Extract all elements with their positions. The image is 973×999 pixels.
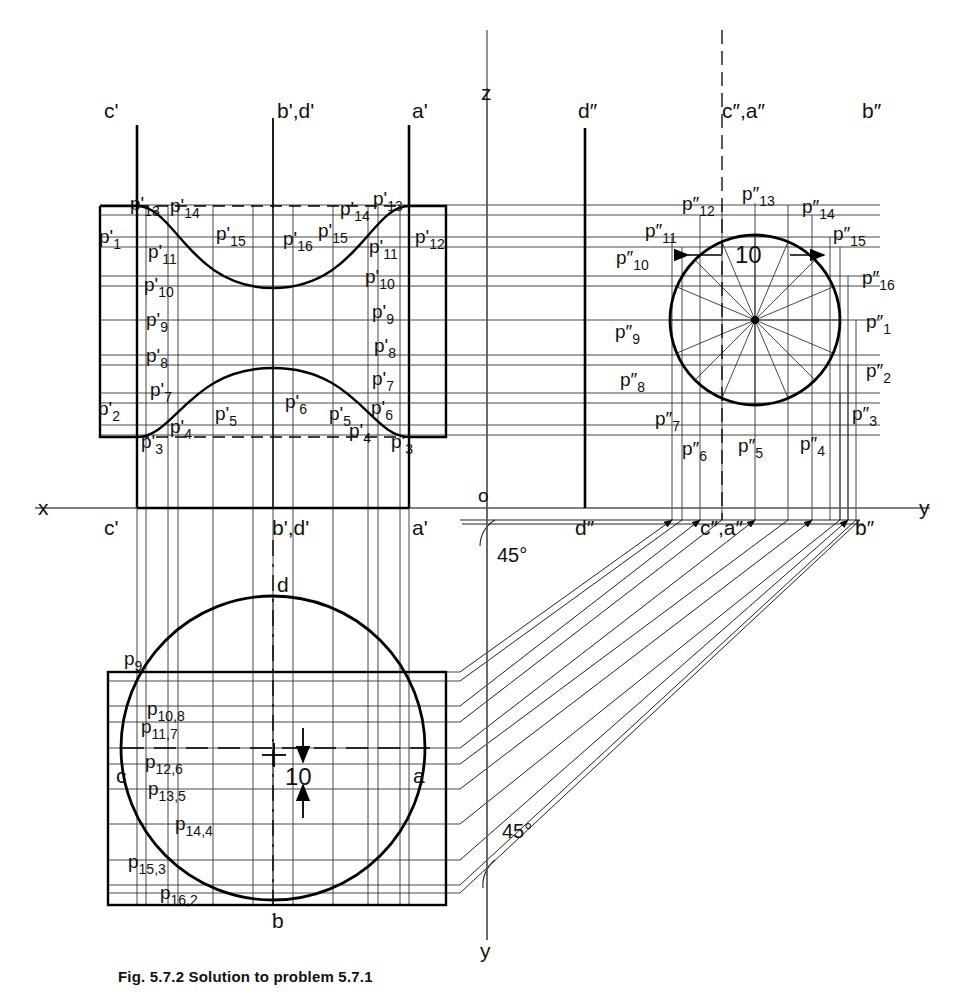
svg-text:p9: p9	[124, 648, 143, 674]
svg-text:p'14: p'14	[170, 195, 200, 221]
label-x-axis: x	[38, 496, 49, 519]
center-lines	[273, 30, 722, 915]
svg-text:p″14: p″14	[802, 196, 835, 222]
svg-text:p13,5: p13,5	[148, 778, 186, 804]
label-d-double-top: d″	[578, 99, 598, 122]
front-view-labels-right: p'13 p'14 p'15 p'12 p'11 p'10 p'9 p'8 p'…	[318, 188, 445, 457]
svg-text:p″8: p″8	[620, 369, 645, 395]
svg-text:c: c	[116, 764, 127, 787]
svg-text:d: d	[277, 573, 289, 596]
svg-text:p'8: p'8	[146, 345, 168, 371]
label-c-prime-bottom: c'	[104, 516, 119, 539]
label-a-prime-bottom: a'	[412, 516, 428, 539]
svg-text:p″5: p″5	[738, 435, 763, 461]
svg-text:p″7: p″7	[655, 408, 680, 434]
svg-text:p'13: p'13	[373, 188, 403, 214]
dimension-value-plan: 10	[285, 763, 312, 790]
svg-text:p'11: p'11	[148, 241, 177, 267]
front-view-labels-left: p'13 p'14 p'1 p'11 p'10 p'9 p'8 p'7 p'2 …	[98, 193, 246, 457]
label-bd-prime-bottom: b',d'	[272, 516, 309, 539]
label-b-double-bottom: b″	[855, 516, 875, 539]
label-b-double-top: b″	[862, 99, 882, 122]
label-origin: o	[478, 485, 489, 506]
svg-text:p'4: p'4	[170, 416, 192, 442]
svg-text:p'9: p'9	[372, 301, 394, 327]
svg-text:p'14: p'14	[340, 198, 370, 224]
svg-text:a: a	[413, 764, 425, 787]
label-angle-upper: 45°	[497, 544, 527, 566]
front-view-reference-sticks	[137, 118, 585, 508]
dimension-value-profile: 10	[735, 241, 762, 268]
top-view-corner-labels: d c a b	[116, 573, 425, 932]
svg-text:p14,4: p14,4	[175, 813, 213, 839]
svg-text:p″4: p″4	[800, 433, 825, 459]
svg-text:p'12: p'12	[415, 226, 445, 252]
svg-text:p″2: p″2	[866, 360, 891, 386]
svg-text:p″6: p″6	[682, 438, 707, 464]
label-ca-double-top: c″,a″	[722, 99, 765, 122]
svg-text:b: b	[272, 909, 284, 932]
figure-caption: Fig. 5.7.2 Solution to problem 5.7.1	[118, 968, 738, 998]
label-y-bottom: y	[480, 939, 491, 962]
svg-text:p'8: p'8	[374, 335, 396, 361]
svg-text:p'11: p'11	[369, 236, 398, 262]
orthographic-projection-svg: c' b',d' a' z d″ c″,a″ b″ x o y y c' b',…	[0, 0, 973, 999]
label-bd-prime-top: b',d'	[277, 99, 314, 122]
svg-text:p'16: p'16	[283, 228, 313, 254]
svg-text:p'7: p'7	[372, 368, 394, 394]
svg-text:p'10: p'10	[144, 274, 174, 300]
svg-text:p″11: p″11	[645, 220, 677, 246]
svg-text:p″9: p″9	[615, 321, 640, 347]
label-c-prime-top: c'	[104, 99, 119, 122]
label-a-prime-top: a'	[412, 99, 428, 122]
svg-text:p'9: p'9	[146, 309, 168, 335]
svg-text:p″16: p″16	[862, 267, 895, 293]
svg-text:p'6: p'6	[285, 391, 307, 417]
drawing-canvas: c' b',d' a' z d″ c″,a″ b″ x o y y c' b',…	[0, 0, 973, 999]
label-ca-double-bottom: c″,a″	[700, 516, 743, 539]
svg-text:p'15: p'15	[216, 223, 246, 249]
svg-text:p″15: p″15	[833, 223, 866, 249]
front-view-labels-middle: p'16 p'6	[283, 228, 313, 417]
svg-text:p'7: p'7	[150, 379, 172, 405]
svg-text:p″1: p″1	[866, 311, 891, 337]
top-view-center-mark	[262, 743, 286, 767]
svg-text:p'2: p'2	[98, 398, 120, 424]
label-d-double-bottom: d″	[575, 516, 595, 539]
label-z-axis: z	[481, 81, 492, 104]
svg-text:p'1: p'1	[99, 226, 121, 252]
svg-text:p10,8: p10,8	[147, 698, 185, 724]
label-angle-lower: 45°	[502, 820, 532, 842]
label-y-right: y	[919, 496, 930, 519]
svg-text:p15,3: p15,3	[128, 851, 166, 877]
svg-text:p12,6: p12,6	[145, 751, 183, 777]
svg-text:p″10: p″10	[616, 247, 649, 273]
svg-text:p'10: p'10	[365, 266, 395, 292]
